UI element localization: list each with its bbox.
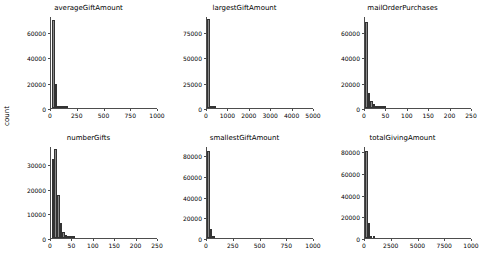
y-tick-label: 75000 [183, 30, 202, 37]
histogram-bar [207, 19, 209, 108]
x-tick-mark [391, 239, 392, 241]
y-tick-label: 60000 [341, 30, 360, 37]
x-tick-label: 1000 [220, 112, 235, 119]
x-tick-label: 250 [151, 242, 162, 249]
bar-series [51, 147, 157, 238]
x-tick-mark [227, 109, 228, 111]
x-tick-label: 3000 [263, 112, 278, 119]
x-tick-mark [130, 109, 131, 111]
y-tick-mark [362, 174, 364, 175]
panel-title: numberGifts [16, 134, 161, 143]
y-tick-mark [362, 109, 364, 110]
y-tick-mark [204, 198, 206, 199]
x-tick-label: 100 [87, 242, 98, 249]
x-tick-label: 1000 [149, 112, 164, 119]
y-tick-label: 20000 [341, 214, 360, 221]
bar-series [51, 17, 157, 108]
x-tick-mark [471, 239, 472, 241]
y-tick-label: 80000 [183, 153, 202, 160]
x-tick-label: 2500 [383, 242, 398, 249]
x-tick-label: 0 [204, 242, 208, 249]
x-tick-mark [260, 239, 261, 241]
y-tick-label: 80000 [341, 149, 360, 156]
x-tick-label: 250 [465, 112, 476, 119]
plot-area: 025050075010000200004000060000 [50, 17, 157, 109]
x-tick-mark [471, 109, 472, 111]
y-tick-mark [204, 33, 206, 34]
x-tick-label: 250 [227, 242, 238, 249]
y-tick-mark [48, 84, 50, 85]
histogram-panel: averageGiftAmount02505007501000020000400… [16, 4, 161, 123]
x-tick-mark [407, 109, 408, 111]
x-tick-label: 200 [444, 112, 455, 119]
y-tick-label: 60000 [183, 173, 202, 180]
y-tick-label: 0 [356, 236, 360, 243]
x-tick-mark [444, 239, 445, 241]
x-tick-label: 500 [254, 242, 265, 249]
x-tick-mark [450, 109, 451, 111]
y-tick-mark [204, 177, 206, 178]
x-tick-mark [313, 109, 314, 111]
histogram-bar [214, 106, 216, 108]
x-tick-mark [249, 109, 250, 111]
x-tick-mark [418, 239, 419, 241]
bar-series [207, 147, 313, 238]
panel-title: mailOrderPurchases [330, 4, 475, 13]
y-tick-label: 60000 [27, 30, 46, 37]
y-tick-label: 0 [356, 106, 360, 113]
plot-area: 02505007501000020000400006000080000 [206, 147, 313, 239]
x-tick-mark [157, 239, 158, 241]
x-axis-line [50, 238, 157, 239]
x-tick-label: 200 [130, 242, 141, 249]
y-tick-mark [48, 109, 50, 110]
x-tick-mark [157, 109, 158, 111]
panel-title: largestGiftAmount [172, 4, 317, 13]
x-tick-label: 750 [281, 242, 292, 249]
x-tick-label: 0 [204, 112, 208, 119]
bar-series [365, 147, 471, 238]
x-tick-label: 50 [68, 242, 76, 249]
x-tick-mark [136, 239, 137, 241]
y-tick-mark [48, 58, 50, 59]
y-tick-mark [48, 214, 50, 215]
histogram-panel: numberGifts05010015020025001000020000300… [16, 134, 161, 253]
x-tick-label: 100 [401, 112, 412, 119]
y-tick-label: 50000 [183, 55, 202, 62]
bar-series [207, 17, 313, 108]
y-tick-label: 40000 [341, 55, 360, 62]
y-tick-mark [48, 33, 50, 34]
y-tick-mark [48, 190, 50, 191]
x-tick-label: 1000 [305, 242, 320, 249]
histogram-bar [212, 236, 214, 238]
y-tick-mark [204, 156, 206, 157]
histogram-bar [65, 106, 68, 108]
y-tick-mark [362, 58, 364, 59]
y-tick-label: 0 [42, 106, 46, 113]
x-tick-label: 0 [362, 112, 366, 119]
histogram-panel: largestGiftAmount01000200030004000500002… [172, 4, 317, 123]
histogram-bar [55, 84, 58, 108]
y-tick-label: 10000 [27, 211, 46, 218]
x-tick-mark [104, 109, 105, 111]
y-tick-mark [362, 239, 364, 240]
x-tick-label: 0 [48, 242, 52, 249]
y-tick-label: 30000 [27, 162, 46, 169]
y-tick-mark [48, 239, 50, 240]
y-tick-label: 20000 [27, 80, 46, 87]
x-tick-mark [270, 109, 271, 111]
y-tick-label: 20000 [27, 186, 46, 193]
y-tick-mark [204, 239, 206, 240]
y-tick-label: 20000 [183, 215, 202, 222]
y-tick-label: 0 [42, 236, 46, 243]
x-tick-label: 1000 [463, 242, 478, 249]
histogram-bar [373, 236, 375, 238]
y-tick-label: 40000 [341, 192, 360, 199]
y-tick-mark [204, 218, 206, 219]
bar-series [365, 17, 471, 108]
x-tick-mark [77, 109, 78, 111]
x-tick-mark [313, 239, 314, 241]
x-tick-label: 50 [382, 112, 390, 119]
histogram-bar [207, 151, 209, 238]
y-tick-mark [204, 84, 206, 85]
plot-area: 0501001502002500200004000060000 [364, 17, 471, 109]
